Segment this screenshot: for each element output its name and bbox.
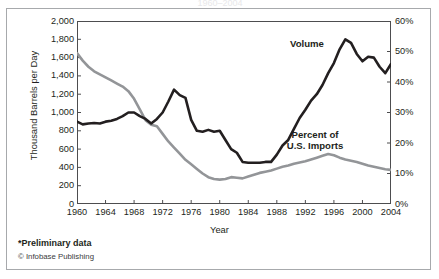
y2-axis-tick-labels: 0%10%20%30%40%50%60% bbox=[395, 0, 435, 279]
x-tick-2004: 2004 bbox=[374, 207, 408, 218]
y-tick-1600: 1,600 bbox=[20, 53, 74, 62]
chart-lines bbox=[77, 21, 391, 204]
y2-tick-30pct: 30% bbox=[395, 108, 435, 117]
footnote-copyright: © Infobase Publishing bbox=[18, 252, 94, 261]
y-tick-1000: 1,000 bbox=[20, 108, 74, 117]
y2-tick-60pct: 60% bbox=[395, 17, 435, 26]
y-tick-1800: 1,800 bbox=[20, 35, 74, 44]
y2-tick-10pct: 10% bbox=[395, 169, 435, 178]
chart-title-partial: 1960–2004 bbox=[150, 0, 290, 6]
y2-tick-20pct: 20% bbox=[395, 139, 435, 148]
y-tick-800: 800 bbox=[20, 126, 74, 135]
x-axis-tick-labels: 1960196419681972197619801984198819921996… bbox=[0, 207, 439, 221]
footnote-preliminary: *Preliminary data bbox=[18, 238, 92, 248]
y2-tick-50pct: 50% bbox=[395, 47, 435, 56]
chart-page: 1960–2004 Thousand Barrels per Day 02004… bbox=[0, 0, 439, 279]
percent-label-line2: U.S. Imports bbox=[287, 140, 344, 151]
percent-label-line1: Percent of bbox=[292, 129, 339, 140]
y2-tick-40pct: 40% bbox=[395, 78, 435, 87]
y-tick-400: 400 bbox=[20, 163, 74, 172]
x-axis-title: Year bbox=[0, 224, 439, 235]
y-tick-1200: 1,200 bbox=[20, 90, 74, 99]
y-tick-1400: 1,400 bbox=[20, 71, 74, 80]
y-tick-600: 600 bbox=[20, 145, 74, 154]
volume-series-label: Volume bbox=[277, 38, 337, 49]
percent-series-label: Percent of U.S. Imports bbox=[272, 129, 358, 151]
y-tick-200: 200 bbox=[20, 181, 74, 190]
y-tick-2000: 2,000 bbox=[20, 17, 74, 26]
